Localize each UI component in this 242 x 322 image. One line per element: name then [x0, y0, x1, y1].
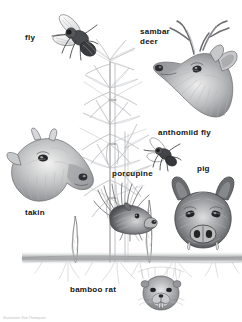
- fly-illustration: [47, 14, 99, 62]
- label-sambar-deer: sambar deer: [140, 27, 194, 47]
- label-takin: takin: [25, 208, 45, 218]
- bamboo-plant-illustration: [72, 48, 160, 263]
- anthomiid-fly-illustration: [142, 138, 182, 172]
- bamboo-ecosystem-figure: fly sambar deer anthomiid fly porcupine …: [0, 0, 242, 322]
- porcupine-illustration: [96, 180, 158, 242]
- label-pig: pig: [197, 164, 210, 174]
- bamboo-shoot-right-illustration: [139, 200, 159, 262]
- label-sambar-deer-line1: sambar: [140, 27, 194, 37]
- label-anthomiid-fly: anthomiid fly: [158, 128, 211, 138]
- pig-illustration: [166, 176, 240, 252]
- illustration-credit: Illustration: Kim Thompson: [3, 316, 46, 320]
- takin-illustration: [5, 128, 97, 206]
- label-sambar-deer-line2: deer: [140, 37, 194, 47]
- bamboo-rat-illustration: [136, 268, 186, 314]
- label-bamboo-rat: bamboo rat: [70, 285, 116, 295]
- label-porcupine: porcupine: [112, 169, 153, 179]
- label-fly: fly: [25, 33, 35, 43]
- bamboo-shoot-left-illustration: [66, 216, 84, 262]
- soil-ground-illustration: [22, 248, 242, 284]
